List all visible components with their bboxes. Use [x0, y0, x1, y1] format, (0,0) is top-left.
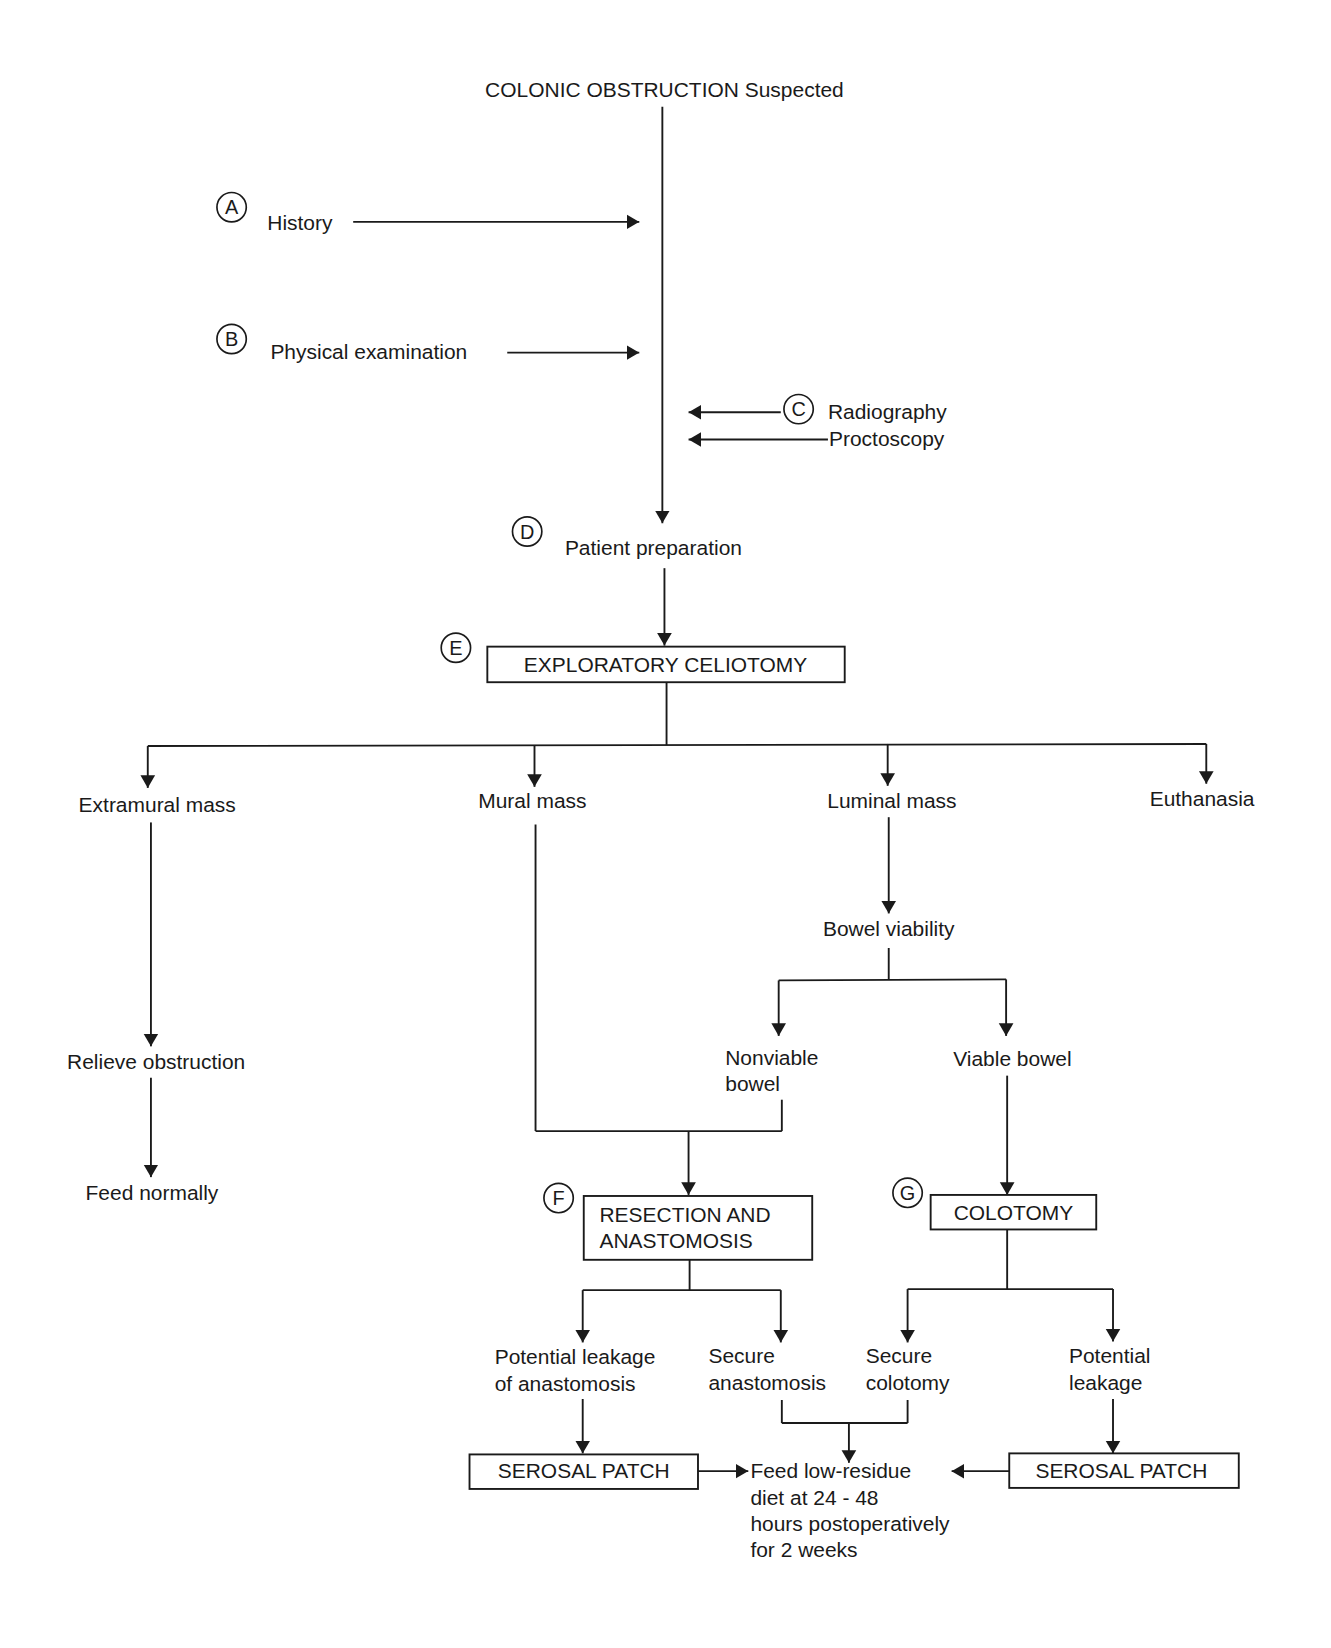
colotomy-potential-leakage-line1: Potential — [1069, 1344, 1151, 1367]
step-g-colotomy: G COLOTOMY — [893, 1178, 1096, 1229]
marker-f-letter: F — [553, 1187, 565, 1209]
step-d-patient-preparation: D Patient preparation — [512, 517, 741, 646]
history-label: History — [267, 211, 333, 234]
secure-colotomy-line1: Secure — [866, 1344, 932, 1367]
final-line-3: hours postoperatively — [750, 1512, 950, 1535]
bowel-viability-label: Bowel viability — [823, 917, 955, 940]
proctoscopy-label: Proctoscopy — [829, 427, 945, 450]
viable-bowel-label: Viable bowel — [953, 1047, 1071, 1070]
nonviable-bowel-label-line2: bowel — [725, 1072, 780, 1095]
serosal-patch-right-label: SEROSAL PATCH — [1035, 1460, 1207, 1483]
potential-leakage-anastomosis-line2: of anastomosis — [495, 1372, 636, 1395]
exploratory-celiotomy-label: EXPLORATORY CELIOTOMY — [524, 653, 807, 676]
step-e-exploratory-celiotomy: E EXPLORATORY CELIOTOMY — [441, 633, 844, 682]
viability-bar — [779, 979, 1006, 980]
feed-normally-label: Feed normally — [86, 1181, 219, 1204]
potential-leakage-anastomosis-line1: Potential leakage — [495, 1345, 656, 1368]
resection-label-line2: ANASTOMOSIS — [599, 1229, 752, 1252]
mural-mass-label: Mural mass — [478, 789, 586, 812]
marker-d-letter: D — [520, 521, 534, 543]
final-line-4: for 2 weeks — [750, 1538, 857, 1561]
step-c-imaging: C Radiography Proctoscopy — [689, 394, 948, 449]
patient-preparation-label: Patient preparation — [565, 536, 742, 559]
euthanasia-label: Euthanasia — [1150, 787, 1255, 810]
marker-c-letter: C — [791, 398, 805, 420]
flowchart-title: COLONIC OBSTRUCTION Suspected — [485, 78, 844, 101]
nonviable-bowel-label-line1: Nonviable — [725, 1046, 818, 1069]
secure-colotomy-line2: colotomy — [866, 1371, 950, 1394]
secure-anastomosis-line1: Secure — [708, 1344, 774, 1367]
marker-a-letter: A — [225, 197, 239, 219]
physical-examination-label: Physical examination — [270, 340, 467, 363]
secure-anastomosis-line2: anastomosis — [708, 1371, 826, 1394]
marker-e-letter: E — [449, 637, 462, 659]
resection-label-line1: RESECTION AND — [599, 1203, 770, 1226]
marker-g-letter: G — [900, 1182, 915, 1204]
step-f-resection-anastomosis: F RESECTION AND ANASTOMOSIS — [544, 1183, 812, 1259]
extramural-mass-label: Extramural mass — [79, 793, 236, 816]
colotomy-label: COLOTOMY — [954, 1201, 1074, 1224]
final-line-1: Feed low-residue — [750, 1460, 911, 1483]
step-a-history: A History — [217, 193, 639, 235]
branch-bar — [148, 744, 1207, 746]
final-feeding-instruction: Feed low-residue diet at 24 - 48 hours p… — [750, 1460, 950, 1561]
marker-b-letter: B — [225, 328, 238, 350]
relieve-obstruction-label: Relieve obstruction — [67, 1050, 245, 1073]
colonic-obstruction-flowchart: COLONIC OBSTRUCTION Suspected A History … — [0, 0, 1331, 1648]
luminal-mass-label: Luminal mass — [827, 789, 956, 812]
step-b-physical-examination: B Physical examination — [217, 324, 639, 363]
final-line-2: diet at 24 - 48 — [750, 1486, 878, 1509]
radiography-label: Radiography — [828, 400, 947, 423]
serosal-patch-left-label: SEROSAL PATCH — [498, 1460, 670, 1483]
colotomy-potential-leakage-line2: leakage — [1069, 1371, 1142, 1394]
